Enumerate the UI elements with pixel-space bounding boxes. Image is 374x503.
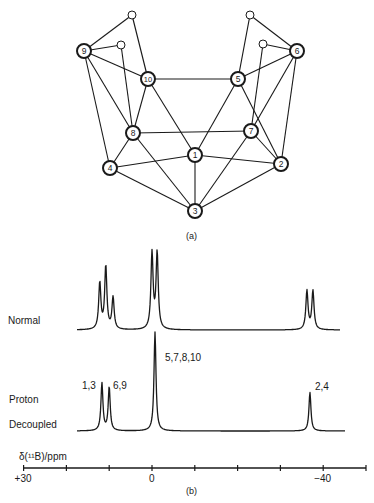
boron-atom-10: 10 (141, 72, 155, 86)
svg-text:4: 4 (108, 163, 113, 173)
boron-atom-1: 1 (188, 148, 202, 162)
bond-line (238, 51, 297, 79)
panel-b-caption: (b) (186, 487, 197, 496)
bond-line (132, 15, 148, 79)
normal-spectrum-trace (77, 249, 340, 330)
proton-label: Proton (9, 395, 38, 405)
hydrogen-atom-circle (259, 40, 267, 48)
peak-assignment-label: 6,9 (113, 381, 127, 391)
hydrogen-atom-circle (117, 41, 125, 49)
peak-assignment-label: 1,3 (82, 381, 96, 391)
svg-text:6: 6 (295, 46, 300, 56)
svg-text:3: 3 (193, 206, 198, 216)
tick-label: 0 (149, 474, 155, 484)
axis-title: δ(¹¹B)/ppm (19, 452, 67, 462)
svg-text:7: 7 (249, 126, 254, 136)
bond-line (148, 79, 195, 155)
svg-text:2: 2 (279, 159, 284, 169)
bond-line (84, 51, 110, 168)
boron-atoms: 12345678910 (77, 44, 304, 218)
decoupled-label: Decoupled (9, 420, 57, 430)
boron-atom-9: 9 (77, 44, 91, 58)
bond-line (195, 131, 251, 211)
bond-line (195, 155, 281, 164)
peak-assignment-label: 2,4 (315, 382, 329, 392)
tick-label: −40 (314, 474, 331, 484)
svg-text:10: 10 (144, 75, 152, 84)
boron-atom-4: 4 (103, 161, 117, 175)
boron-atom-2: 2 (274, 157, 288, 171)
normal-trace-label: Normal (8, 316, 40, 326)
tick-label: +30 (15, 474, 32, 484)
svg-text:8: 8 (131, 128, 136, 138)
bond-line (195, 79, 238, 155)
bond-line (133, 79, 148, 133)
bond-line (195, 164, 281, 211)
peak-assignment-label: 5,7,8,10 (165, 353, 201, 363)
hydrogen-atom-circle (128, 11, 136, 19)
bond-line (251, 44, 263, 131)
bond-line (84, 51, 148, 79)
ppm-axis (24, 465, 366, 471)
svg-text:9: 9 (82, 46, 87, 56)
bond-line (238, 15, 250, 79)
bond-line (84, 51, 133, 133)
boron-atom-3: 3 (188, 204, 202, 218)
boron-atom-8: 8 (126, 126, 140, 140)
bond-line (133, 133, 195, 211)
boron-atom-5: 5 (231, 72, 245, 86)
svg-text:5: 5 (236, 74, 241, 84)
boron-atom-7: 7 (244, 124, 258, 138)
bond-line (133, 131, 251, 133)
bond-line (281, 51, 297, 164)
bond-line (121, 45, 133, 133)
bond-line (110, 168, 195, 211)
boron-atom-6: 6 (290, 44, 304, 58)
hydrogen-atom-circle (246, 11, 254, 19)
bond-line (250, 15, 297, 51)
svg-text:1: 1 (193, 150, 198, 160)
panel-a-caption: (a) (186, 232, 197, 241)
bond-line (238, 79, 281, 164)
decaborane-figure: 12345678910 (a) Normal Proton Decoupled … (0, 0, 374, 503)
